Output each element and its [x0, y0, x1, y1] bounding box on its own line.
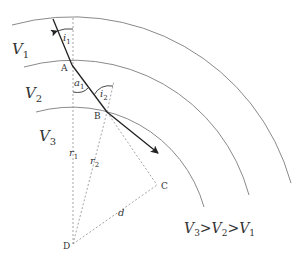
segment-label-r2: r2: [90, 155, 99, 169]
angle-label-i2: i2: [100, 88, 108, 102]
boundary-arc-middle: [24, 60, 249, 195]
segment-label-d: d: [118, 207, 124, 218]
line-B-to-C: [107, 112, 157, 185]
point-label-b: B: [94, 111, 101, 121]
ray-segment-3: [107, 112, 158, 153]
boundary-arc-outer: [12, 17, 291, 183]
radius-r2-line: [73, 112, 107, 244]
segment-label-r1: r1: [69, 147, 78, 161]
layer-label-v2: V2: [25, 84, 42, 104]
segment-d-line: [73, 185, 157, 244]
point-label-a: A: [60, 63, 68, 73]
angle-i1-arc-icon: [57, 29, 73, 31]
point-label-d: D: [63, 241, 70, 251]
point-label-c: C: [161, 181, 168, 191]
layer-label-v1: V1: [12, 40, 29, 60]
angle-label-i1: i1: [63, 32, 71, 46]
ray-refraction-diagram: V1 V2 V3 A B C D i1 a1 i2 r1 r2 d V3>V2>…: [0, 0, 304, 261]
layer-label-v3: V3: [39, 127, 56, 147]
velocity-relation-text: V3>V2>V1: [184, 220, 255, 238]
